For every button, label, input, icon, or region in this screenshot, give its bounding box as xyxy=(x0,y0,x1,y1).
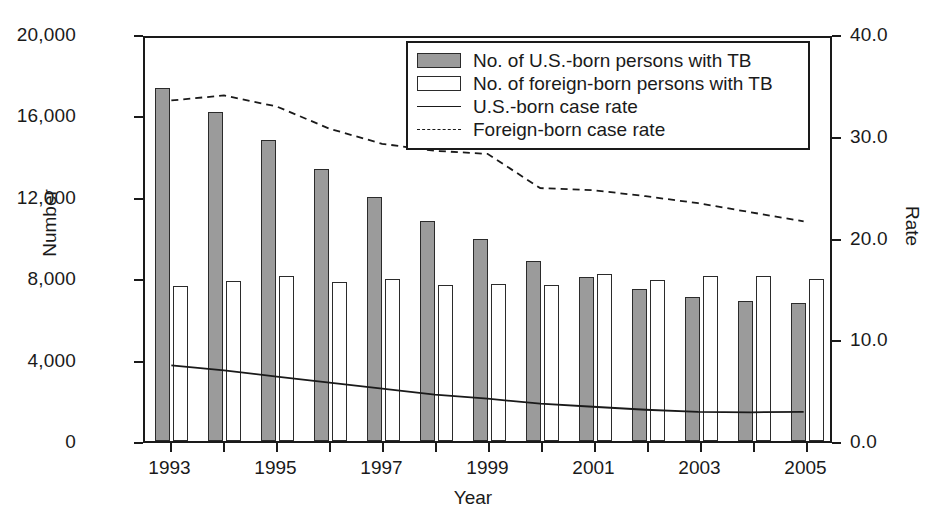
secondary-y-axis-tick xyxy=(832,340,841,342)
x-axis-tick xyxy=(700,443,702,452)
x-axis-title: Year xyxy=(0,487,946,509)
y-axis-tick xyxy=(134,198,143,200)
x-axis-tick-label: 1999 xyxy=(453,457,523,479)
secondary-y-axis-tick-label: 0.0 xyxy=(850,431,877,453)
legend-label: Foreign-born case rate xyxy=(473,120,665,139)
y-axis-tick-label: 4,000 xyxy=(27,350,76,372)
x-axis-tick xyxy=(488,443,490,452)
legend-label: No. of foreign-born persons with TB xyxy=(473,74,773,93)
legend-item-us-born-bars: No. of U.S.-born persons with TB xyxy=(417,49,800,72)
secondary-y-axis-tick xyxy=(832,137,841,139)
x-axis-tick xyxy=(329,443,331,452)
x-axis-tick xyxy=(170,443,172,452)
legend-swatch-solid-line xyxy=(417,99,461,114)
us-born-case-rate-line xyxy=(171,365,803,412)
secondary-y-axis-tick-label: 40.0 xyxy=(850,24,888,46)
legend-item-foreign-born-case-rate: Foreign-born case rate xyxy=(417,118,800,141)
x-axis-tick-label: 1995 xyxy=(241,457,311,479)
x-axis-tick xyxy=(276,443,278,452)
legend-item-foreign-born-bars: No. of foreign-born persons with TB xyxy=(417,72,800,95)
secondary-y-axis-tick xyxy=(832,442,841,444)
x-axis-tick-label: 1993 xyxy=(135,457,205,479)
secondary-y-axis-tick-label: 30.0 xyxy=(850,126,888,148)
x-axis-tick xyxy=(223,443,225,452)
secondary-y-axis-tick-label: 20.0 xyxy=(850,228,888,250)
x-axis-tick-label: 2005 xyxy=(771,457,841,479)
legend-swatch-dashed-line xyxy=(417,122,461,137)
y-axis-tick-label: 8,000 xyxy=(27,268,76,290)
y-axis-tick xyxy=(134,442,143,444)
y-axis-tick xyxy=(134,35,143,37)
secondary-y-axis-tick xyxy=(832,35,841,37)
x-axis-tick xyxy=(382,443,384,452)
legend-swatch-empty-white-rect xyxy=(417,76,461,91)
y-axis-tick xyxy=(134,279,143,281)
x-axis-tick xyxy=(647,443,649,452)
legend-label: No. of U.S.-born persons with TB xyxy=(473,51,751,70)
x-axis-tick-label: 2003 xyxy=(665,457,735,479)
chart-legend: No. of U.S.-born persons with TB No. of … xyxy=(406,41,810,150)
y-axis-tick-label: 16,000 xyxy=(17,105,76,127)
y-axis-tick xyxy=(134,361,143,363)
x-axis-tick xyxy=(753,443,755,452)
x-axis-tick xyxy=(435,443,437,452)
chart-page: Number Rate Year 04,0008,00012,00016,000… xyxy=(0,0,946,527)
y-axis-tick xyxy=(134,116,143,118)
y-axis-tick-label: 0 xyxy=(65,431,76,453)
x-axis-tick-label: 1997 xyxy=(347,457,417,479)
secondary-y-axis-title: Rate xyxy=(901,176,923,276)
x-axis-tick xyxy=(541,443,543,452)
legend-swatch-filled-gray-rect xyxy=(417,53,461,68)
y-axis-tick-label: 12,000 xyxy=(17,187,76,209)
legend-item-us-born-case-rate: U.S.-born case rate xyxy=(417,95,800,118)
secondary-y-axis-tick xyxy=(832,239,841,241)
secondary-y-axis-tick-label: 10.0 xyxy=(850,329,888,351)
x-axis-tick xyxy=(806,443,808,452)
x-axis-tick-label: 2001 xyxy=(559,457,629,479)
x-axis-tick xyxy=(594,443,596,452)
y-axis-tick-label: 20,000 xyxy=(17,24,76,46)
legend-label: U.S.-born case rate xyxy=(473,97,638,116)
